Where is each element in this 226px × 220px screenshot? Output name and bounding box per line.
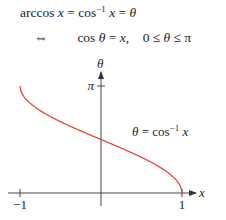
curve-annotation: θ = cos−1 x	[132, 123, 188, 139]
x-axis-label: x	[198, 185, 205, 200]
arccos-chart: x θ −11π θ = cos−1 x	[0, 0, 226, 220]
theta-tick-label: π	[87, 78, 94, 93]
x-tick-label: 1	[179, 197, 186, 212]
theta-axis-label: θ	[97, 56, 104, 71]
x-tick-label: −1	[13, 197, 27, 212]
